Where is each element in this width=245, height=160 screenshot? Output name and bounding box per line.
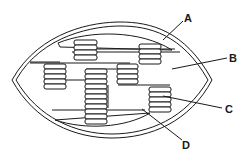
label-c: C bbox=[225, 103, 233, 115]
chloroplast-diagram: A B C D bbox=[0, 0, 245, 160]
label-a: A bbox=[184, 12, 192, 24]
granum-3 bbox=[44, 64, 66, 89]
leader-lines bbox=[142, 21, 227, 140]
leader-line-d bbox=[142, 109, 182, 140]
label-b: B bbox=[229, 52, 237, 64]
label-d: D bbox=[182, 139, 190, 151]
leader-line-a bbox=[163, 21, 183, 40]
granum-4 bbox=[85, 69, 107, 124]
granum-2 bbox=[139, 44, 161, 64]
granum-6 bbox=[149, 87, 171, 112]
granum-5 bbox=[117, 64, 138, 84]
granum-1 bbox=[74, 40, 97, 60]
outer-membrane bbox=[12, 22, 212, 138]
